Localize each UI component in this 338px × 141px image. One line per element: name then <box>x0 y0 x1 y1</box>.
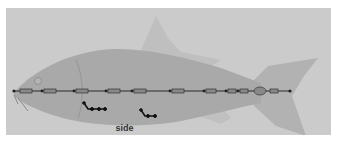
3d-viewport-side[interactable]: side <box>6 8 331 135</box>
eye <box>35 78 42 85</box>
camera-view-label: side <box>6 123 287 133</box>
fish-model[interactable] <box>6 8 331 135</box>
